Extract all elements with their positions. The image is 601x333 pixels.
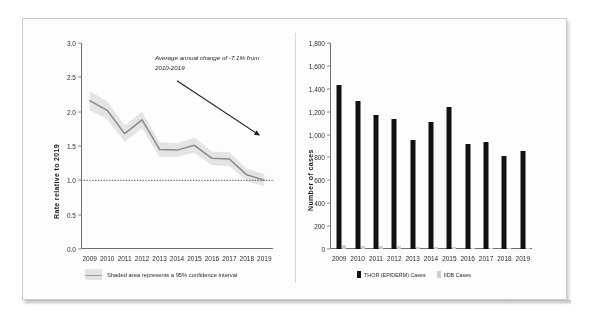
bar-chart-x-tick-label: 2014: [424, 255, 438, 262]
thor-series-label: THOR (EPIDERM) Cases: [364, 272, 426, 278]
iidb-series-label: IIDB Cases: [444, 272, 471, 278]
bar-chart-x-tick-label: 2013: [405, 255, 419, 262]
bar-iidb-cases: [434, 247, 438, 249]
bar-thor-cases: [392, 119, 397, 249]
bar-chart-x-tick-label: 2010: [350, 255, 364, 262]
bar-group: [516, 43, 530, 249]
bar-thor-cases: [520, 151, 525, 249]
bar-thor-cases: [355, 101, 360, 249]
line-chart-x-tick-label: 2011: [118, 255, 132, 262]
bar-chart-y-tick-label: 1,600: [309, 62, 325, 69]
iidb-series-swatch: [437, 271, 441, 278]
bar-chart-x-tick-label: 2017: [479, 255, 493, 262]
line-chart-y-tick-label: 2.0: [67, 108, 76, 115]
confidence-band-swatch: [85, 269, 102, 280]
bar-group: [406, 43, 420, 249]
bar-iidb-cases: [416, 247, 420, 249]
bar-chart-y-tick-label: 800: [314, 154, 325, 161]
bar-chart-y-tick-label: 400: [314, 200, 325, 207]
line-chart-x-tick-label: 2015: [187, 255, 201, 262]
bar-group: [497, 43, 511, 249]
line-chart-y-tick-label: 3.0: [67, 40, 76, 47]
line-chart-y-tick-label: 1.0: [67, 177, 76, 184]
line-chart-x-tick-label: 2010: [100, 255, 114, 262]
bar-chart-y-tick-label: 200: [314, 223, 325, 230]
bar-iidb-cases: [526, 248, 530, 249]
bar-iidb-cases: [342, 245, 346, 249]
bar-chart-x-tick-label: 2018: [497, 255, 511, 262]
line-chart-y-tick-label: 1.5: [67, 143, 76, 150]
bar-iidb-cases: [507, 248, 511, 249]
line-chart-x-tick-label: 2017: [222, 255, 236, 262]
bar-chart-bars: [330, 43, 532, 249]
bar-group: [424, 43, 438, 249]
bar-group: [351, 43, 365, 249]
bar-thor-cases: [337, 85, 342, 249]
line-chart-y-tick-label: 0.0: [67, 246, 76, 253]
bar-chart-y-tick-label: 600: [314, 177, 325, 184]
line-chart-series: [81, 43, 273, 249]
bar-group: [332, 43, 346, 249]
bar-iidb-cases: [379, 246, 383, 249]
bar-chart-x-tick-label: 2009: [332, 255, 346, 262]
bar-iidb-cases: [397, 246, 401, 249]
bar-thor-cases: [447, 107, 452, 249]
confidence-band-legend-label: Shaded area represents a 95% confidence …: [107, 272, 237, 278]
bar-group: [461, 43, 475, 249]
bar-thor-cases: [373, 115, 378, 249]
bar-group: [479, 43, 493, 249]
bar-chart-y-tick-label: 1,400: [309, 85, 325, 92]
thor-series-swatch: [357, 271, 361, 278]
figure-card: Rate relative to 2019 3.02.52.01.51.00.5…: [22, 18, 567, 300]
line-chart-y-tick-label: 2.5: [67, 74, 76, 81]
bar-chart-x-tick-label: 2016: [460, 255, 474, 262]
annotation-arrow: [177, 81, 259, 135]
bar-thor-cases: [484, 142, 489, 249]
bar-chart-panel: Number of cases 1,8001,6001,4001,2001,00…: [295, 19, 568, 301]
bar-chart-y-tick-label: 1,200: [309, 108, 325, 115]
annotation-arrow-head: [254, 130, 260, 135]
line-chart-x-tick-label: 2014: [170, 255, 184, 262]
confidence-interval-band: [90, 91, 265, 186]
line-chart-x-tick-label: 2016: [205, 255, 219, 262]
bar-thor-cases: [502, 156, 507, 249]
line-chart-legend: Shaded area represents a 95% confidence …: [85, 269, 237, 280]
bar-iidb-cases: [471, 248, 475, 249]
line-chart-x-tick-label: 2012: [135, 255, 149, 262]
line-chart-x-tick-label: 2018: [240, 255, 254, 262]
legend-item-thor: THOR (EPIDERM) Cases: [357, 271, 426, 278]
line-chart-y-axis-label: Rate relative to 2019: [53, 144, 60, 219]
line-chart-y-tick-label: 0.5: [67, 211, 76, 218]
legend-item-iidb: IIDB Cases: [437, 271, 471, 278]
average-annual-change-annotation: Average annual change of -7.1% from 2010…: [155, 53, 267, 72]
page-shadow: [26, 300, 571, 304]
bar-chart-x-tick-label: 2011: [369, 255, 383, 262]
bar-chart-y-tick-label: 1,800: [309, 40, 325, 47]
bar-thor-cases: [410, 140, 415, 249]
line-chart-x-tick-label: 2019: [257, 255, 271, 262]
bar-group: [387, 43, 401, 249]
bar-chart-y-tick-label: 0: [321, 246, 325, 253]
bar-group: [442, 43, 456, 249]
bar-chart-x-tick-label: 2019: [516, 255, 530, 262]
bar-thor-cases: [429, 122, 434, 249]
bar-thor-cases: [465, 144, 470, 249]
bar-chart-y-tick-label: 1,000: [309, 131, 325, 138]
line-chart-plot-area: 3.02.52.01.51.00.50.0 200920102011201220…: [81, 43, 273, 249]
bar-chart-plot-area: 1,8001,6001,4001,2001,0008006004002000 2…: [330, 43, 532, 249]
bar-iidb-cases: [361, 246, 365, 249]
bar-chart-x-tick-label: 2015: [442, 255, 456, 262]
bar-chart-y-axis-label: Number of cases: [307, 149, 314, 211]
line-chart-x-tick-label: 2009: [82, 255, 96, 262]
bar-iidb-cases: [452, 247, 456, 249]
line-chart-x-tick-label: 2013: [152, 255, 166, 262]
bar-chart-legend: THOR (EPIDERM) Cases IIDB Cases: [357, 271, 471, 278]
line-chart-panel: Rate relative to 2019 3.02.52.01.51.00.5…: [23, 19, 295, 301]
bar-iidb-cases: [489, 248, 493, 249]
bar-group: [369, 43, 383, 249]
bar-chart-x-tick-label: 2012: [387, 255, 401, 262]
